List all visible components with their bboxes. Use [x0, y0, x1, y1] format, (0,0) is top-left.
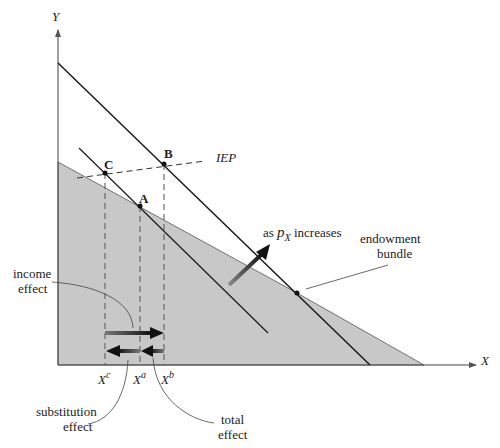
total-callout-curve	[153, 358, 214, 423]
income-effect-arrow-shaft	[105, 331, 152, 335]
substitution-effect-label-line1: substitution	[36, 404, 97, 419]
xb-label: Xb	[160, 369, 174, 387]
x-axis-label: X	[480, 353, 490, 368]
income-effect-label-line1: income	[13, 266, 51, 281]
total-effect-label-line1: total	[221, 412, 244, 427]
endowment-pointer	[306, 265, 388, 289]
substitution-effect-label-line2: effect	[63, 419, 93, 434]
endowment-point	[295, 291, 300, 296]
substitution-effect-arrow-shaft	[118, 349, 140, 353]
xa-label: Xa	[132, 369, 146, 387]
point-c-label: C	[104, 157, 113, 172]
endowment-label-line2: bundle	[377, 246, 413, 261]
endowment-label-line1: endowment	[360, 231, 421, 246]
iep-line	[77, 161, 205, 178]
point-b	[162, 162, 167, 167]
point-a-label: A	[139, 191, 149, 206]
y-axis-label: Y	[52, 9, 61, 24]
total-effect-label-line2: effect	[218, 427, 248, 442]
point-b-label: B	[164, 146, 173, 161]
price-change-label: as pX increases	[263, 224, 342, 243]
iep-label: IEP	[215, 150, 236, 165]
budget-diagram: Y X A B C IEP as pX increases endowment …	[0, 0, 500, 448]
income-effect-label-line2: effect	[18, 281, 48, 296]
xc-label: Xc	[97, 369, 111, 387]
